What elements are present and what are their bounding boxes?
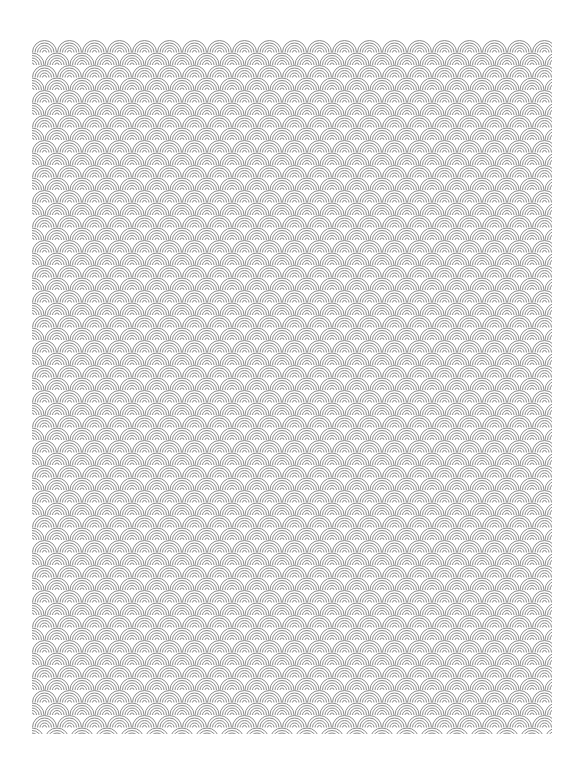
seigaiha-pattern-panel [32, 40, 552, 734]
wave-pattern-graphic [32, 40, 552, 734]
page-canvas [0, 0, 583, 769]
